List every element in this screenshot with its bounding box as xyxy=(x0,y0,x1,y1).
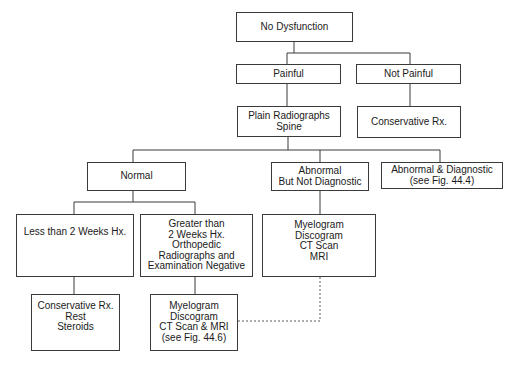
node-less-than-2-weeks: Less than 2 Weeks Hx. xyxy=(16,214,134,277)
node-text-line: But Not Diagnostic xyxy=(279,177,362,188)
node-text-line: Abnormal & Diagnostic xyxy=(391,165,493,176)
node-myelogram-bottom: MyelogramDiscogramCT Scan & MRI(see Fig.… xyxy=(150,294,238,351)
node-greater-than-2-weeks: Greater than2 Weeks Hx.OrthopedicRadiogr… xyxy=(140,214,253,277)
node-myelogram-right: MyelogramDiscogramCT ScanMRI xyxy=(262,214,376,277)
node-text-line: CT Scan & MRI xyxy=(159,322,228,333)
node-text-line: No Dysfunction xyxy=(261,22,329,33)
node-no-dysfunction: No Dysfunction xyxy=(236,12,353,42)
node-text-line: Greater than xyxy=(168,219,224,230)
node-painful: Painful xyxy=(236,64,341,84)
node-text-line: Abnormal xyxy=(299,166,342,177)
node-plain-radiographs: Plain RadiographsSpine xyxy=(237,106,341,137)
connector-root xyxy=(287,41,410,64)
node-abnormal-not-diagnostic: AbnormalBut Not Diagnostic xyxy=(271,162,369,191)
node-text-line: Conservative Rx. xyxy=(371,117,447,128)
node-text-line: Myelogram xyxy=(169,301,218,312)
node-text-line: Myelogram xyxy=(294,220,343,231)
node-text-line: (see Fig. 44.4) xyxy=(410,176,474,187)
connector-radiographs xyxy=(133,136,440,162)
node-text-line: Normal xyxy=(120,171,152,182)
node-text-line: Spine xyxy=(276,122,302,133)
node-normal: Normal xyxy=(87,162,186,191)
node-text-line: Orthopedic xyxy=(172,240,221,251)
node-text-line: (see Fig. 44.6) xyxy=(162,333,226,344)
node-conservative-bottom: Conservative Rx.RestSteroids xyxy=(31,294,120,351)
node-text-line: Steroids xyxy=(57,322,94,333)
node-abnormal-diagnostic: Abnormal & Diagnostic(see Fig. 44.4) xyxy=(381,162,503,189)
node-text-line: Not Painful xyxy=(384,69,433,80)
node-text-line: CT Scan xyxy=(300,241,339,252)
connector-normal xyxy=(74,190,195,214)
node-text-line: Less than 2 Weeks Hx. xyxy=(24,227,127,238)
node-text-line: Conservative Rx. xyxy=(37,301,113,312)
node-conservative-top: Conservative Rx. xyxy=(357,106,461,138)
node-text-line: Plain Radiographs xyxy=(248,111,330,122)
node-not-painful: Not Painful xyxy=(356,64,461,84)
node-text-line: MRI xyxy=(310,252,328,263)
node-text-line: Examination Negative xyxy=(148,261,245,272)
dashed-connector xyxy=(238,277,320,321)
node-text-line: Painful xyxy=(273,69,304,80)
